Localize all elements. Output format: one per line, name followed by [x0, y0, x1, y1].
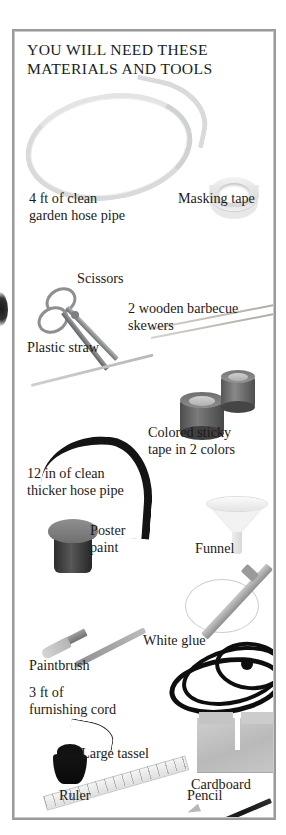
cardboard-slit [235, 718, 240, 750]
furnishing-cord-icon [167, 640, 273, 722]
label-poster-paint: Poster paint [90, 522, 180, 555]
cardboard-flap-right [241, 712, 273, 724]
funnel-rim [207, 497, 267, 511]
label-scissors: Scissors [77, 270, 167, 287]
materials-panel-frame: YOU WILL NEED THESE MATERIALS AND TOOLS … [12, 29, 276, 820]
materials-panel-inner: YOU WILL NEED THESE MATERIALS AND TOOLS … [15, 32, 273, 817]
scissors-pivot [71, 311, 79, 319]
label-pencil: Pencil [187, 787, 267, 804]
label-masking-tape: Masking tape [178, 190, 273, 207]
page-title: YOU WILL NEED THESE MATERIALS AND TOOLS [27, 40, 269, 78]
cardboard-icon [197, 712, 273, 774]
label-sticky-tape: Colored sticky tape in 2 colors [148, 424, 273, 457]
label-paintbrush: Paintbrush [29, 657, 149, 674]
label-funnel: Funnel [195, 540, 273, 557]
label-garden-hose: 4 ft of clean garden hose pipe [29, 190, 179, 223]
label-plastic-straw: Plastic straw [27, 339, 157, 356]
materials-list-page: YOU WILL NEED THESE MATERIALS AND TOOLS … [0, 0, 286, 835]
label-thicker-hose: 12 in of clean thicker hose pipe [27, 465, 167, 498]
tape-roll-hole [228, 373, 248, 381]
pencil-tip [186, 804, 201, 816]
cord-knot [241, 658, 253, 670]
label-furnishing-cord: 3 ft of furnishing cord [29, 684, 169, 717]
tape-roll-hole [189, 396, 215, 406]
offpage-object-bleed [0, 292, 8, 326]
sticky-tape-roll-2-icon [221, 368, 255, 414]
garden-hose-icon [23, 84, 203, 194]
label-skewers: 2 wooden barbecue skewers [128, 300, 273, 333]
label-ruler: Ruler [59, 787, 129, 804]
tape-roll-bottom [221, 401, 255, 413]
cardboard-flap-left [199, 712, 233, 724]
